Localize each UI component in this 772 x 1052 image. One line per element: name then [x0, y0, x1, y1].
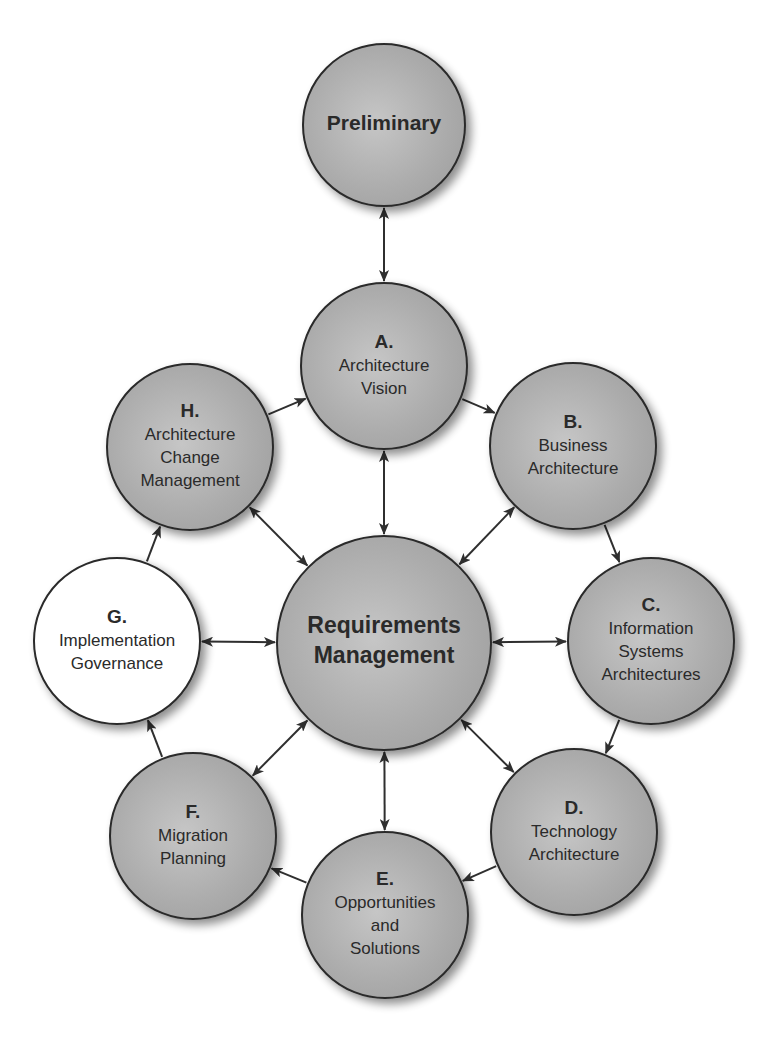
node-circle-c — [568, 558, 734, 724]
node-text-c-1: Systems — [618, 642, 683, 661]
node-text-h-0: Architecture — [145, 425, 236, 444]
node-letter-e: E. — [376, 868, 394, 889]
arrow-a-to-b — [462, 399, 494, 413]
arrow-b-to-c — [605, 525, 620, 562]
node-text-a-1: Vision — [361, 379, 407, 398]
node-text-h-1: Change — [160, 448, 220, 467]
arrow-g-to-h — [147, 527, 160, 562]
node-text-c-0: Information — [608, 619, 693, 638]
arrow-center-to-c-bidirectional — [493, 642, 566, 643]
node-text-b-1: Architecture — [528, 459, 619, 478]
node-letter-h: H. — [181, 400, 200, 421]
node-text-center-1: Management — [314, 642, 455, 668]
node-e: E.OpportunitiesandSolutions — [302, 832, 468, 998]
arrow-center-to-d-bidirectional — [461, 720, 513, 772]
node-text-f-1: Planning — [160, 849, 226, 868]
node-text-d-1: Architecture — [529, 845, 620, 864]
node-text-d-0: Technology — [531, 822, 618, 841]
arrow-center-to-f-bidirectional — [253, 721, 307, 776]
node-letter-b: B. — [564, 411, 583, 432]
arrow-h-to-a — [268, 399, 305, 415]
node-preliminary: Preliminary — [303, 44, 465, 206]
node-letter-d: D. — [565, 797, 584, 818]
node-text-e-1: and — [371, 916, 399, 935]
node-center: RequirementsManagement — [277, 536, 491, 750]
node-text-center-0: Requirements — [307, 612, 460, 638]
arrow-center-to-h-bidirectional — [250, 507, 307, 565]
node-circle-h — [107, 364, 273, 530]
node-text-h-2: Management — [140, 471, 240, 490]
node-b: B.BusinessArchitecture — [490, 363, 656, 529]
arrow-c-to-d — [606, 720, 619, 753]
node-text-c-2: Architectures — [601, 665, 700, 684]
node-f: F.MigrationPlanning — [110, 753, 276, 919]
arrow-center-to-g-bidirectional — [202, 642, 275, 643]
node-d: D.TechnologyArchitecture — [491, 749, 657, 915]
node-circle-e — [302, 832, 468, 998]
node-h: H.ArchitectureChangeManagement — [107, 364, 273, 530]
node-text-e-0: Opportunities — [334, 893, 435, 912]
node-letter-c: C. — [642, 594, 661, 615]
node-text-e-2: Solutions — [350, 939, 420, 958]
node-letter-a: A. — [375, 331, 394, 352]
node-c: C.InformationSystemsArchitectures — [568, 558, 734, 724]
node-text-a-0: Architecture — [339, 356, 430, 375]
adm-cycle-diagram: PreliminaryA.ArchitectureVisionB.Busines… — [0, 0, 772, 1052]
node-text-b-0: Business — [539, 436, 608, 455]
node-g: G.ImplementationGovernance — [34, 558, 200, 724]
arrow-d-to-e — [463, 866, 496, 881]
arrow-f-to-g — [148, 720, 162, 757]
node-text-f-0: Migration — [158, 826, 228, 845]
node-letter-f: F. — [186, 801, 201, 822]
arrow-center-to-b-bidirectional — [460, 507, 515, 564]
arrow-e-to-f — [272, 868, 307, 882]
node-text-g-0: Implementation — [59, 631, 175, 650]
node-text-g-1: Governance — [71, 654, 164, 673]
node-a: A.ArchitectureVision — [301, 283, 467, 449]
node-letter-g: G. — [107, 606, 127, 627]
node-text-preliminary-0: Preliminary — [327, 111, 442, 134]
